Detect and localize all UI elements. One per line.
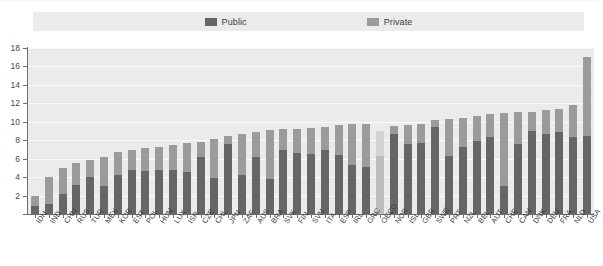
bar-segment-public (238, 175, 246, 214)
bar-segment-public (555, 132, 563, 214)
legend-swatch-public-icon (205, 18, 217, 26)
bar-chl[interactable] (210, 139, 218, 214)
bar-segment-private (321, 127, 329, 150)
legend-item-public: Public (205, 17, 247, 27)
legend-item-private: Private (367, 17, 413, 27)
bar-segment-private (197, 142, 205, 157)
bar-segment-private (569, 105, 577, 137)
bar-segment-public (542, 134, 550, 214)
bar-irl[interactable] (348, 124, 356, 214)
bar-segment-private (183, 143, 191, 172)
bar-segment-private (528, 112, 536, 131)
bar-dnk[interactable] (528, 112, 536, 214)
bar-usa[interactable] (583, 57, 591, 214)
bar-est[interactable] (128, 150, 136, 214)
legend-label-private: Private (384, 17, 413, 27)
bar-segment-private (376, 131, 384, 156)
bar-fin[interactable] (293, 129, 301, 214)
bar-segment-public (335, 155, 343, 214)
bar-aus[interactable] (252, 132, 260, 214)
bar-segment-public (583, 136, 591, 214)
bar-ita[interactable] (321, 127, 329, 214)
bar-bra[interactable] (266, 130, 274, 214)
bar-zaf[interactable] (238, 134, 246, 214)
bar-rus[interactable] (72, 163, 80, 214)
bar-segment-private (404, 125, 412, 143)
y-axis-tick-label: 8 (2, 135, 20, 145)
bar-segment-public (362, 167, 370, 214)
bar-segment-public (486, 137, 494, 214)
bar-segment-public (155, 170, 163, 214)
bar-deu[interactable] (542, 110, 550, 214)
bar-segment-private (555, 109, 563, 132)
bar-ind[interactable] (45, 177, 53, 214)
bar-segment-public (348, 165, 356, 214)
y-axis-tick-label: 12 (2, 98, 20, 108)
y-axis-tick-label: 4 (2, 172, 20, 182)
legend-label-public: Public (222, 17, 247, 27)
y-axis-tick-label: 10 (2, 117, 20, 127)
bar-isr[interactable] (183, 143, 191, 214)
bar-cze[interactable] (197, 142, 205, 214)
bar-swe[interactable] (431, 120, 439, 214)
bar-segment-private (473, 116, 481, 141)
bar-can[interactable] (514, 112, 522, 214)
bar-segment-private (431, 120, 439, 127)
bar-segment-private (348, 124, 356, 166)
bar-segment-public (279, 150, 287, 214)
bar-segment-private (155, 147, 163, 170)
bar-fra[interactable] (555, 109, 563, 214)
bar-segment-public (376, 156, 384, 214)
bar-segment-private (224, 136, 232, 144)
bar-mex[interactable] (100, 157, 108, 214)
bar-segment-private (72, 163, 80, 185)
bar-oecd[interactable] (376, 131, 384, 214)
y-axis-tick-label: 2 (2, 191, 20, 201)
bar-prt[interactable] (445, 119, 453, 214)
bar-hun[interactable] (155, 147, 163, 214)
bar-aut[interactable] (486, 114, 494, 214)
bar-idn[interactable] (31, 196, 39, 214)
bar-segment-private (31, 196, 39, 206)
bar-segment-private (390, 126, 398, 133)
bar-che[interactable] (500, 113, 508, 214)
bar-segment-private (514, 112, 522, 144)
bar-svk[interactable] (279, 129, 287, 214)
bar-bel[interactable] (473, 116, 481, 214)
bar-chn[interactable] (59, 168, 67, 214)
bar-segment-private (252, 132, 260, 157)
bar-grc[interactable] (362, 124, 370, 214)
bar-esp[interactable] (335, 125, 343, 214)
bar-segment-public (183, 172, 191, 214)
bar-tur[interactable] (86, 160, 94, 214)
bar-jpn[interactable] (224, 136, 232, 214)
bar-segment-private (362, 124, 370, 167)
bar-segment-public (514, 144, 522, 214)
bar-kor[interactable] (114, 152, 122, 214)
bar-series-layer (28, 48, 594, 214)
bar-segment-private (542, 110, 550, 134)
bar-segment-private (114, 152, 122, 175)
bar-segment-private (100, 157, 108, 187)
bar-segment-public (431, 127, 439, 214)
bar-segment-private (169, 145, 177, 170)
bar-nzl[interactable] (459, 118, 467, 214)
bar-pol[interactable] (141, 148, 149, 214)
bar-segment-private (459, 118, 467, 147)
bar-segment-public (197, 157, 205, 214)
bar-segment-public (569, 137, 577, 214)
bar-segment-private (279, 129, 287, 150)
bar-lux[interactable] (169, 145, 177, 214)
bar-segment-private (59, 168, 67, 194)
bar-segment-public (224, 144, 232, 214)
bar-segment-private (266, 130, 274, 179)
y-axis-tick-label: 16 (2, 61, 20, 71)
bar-segment-public (293, 153, 301, 214)
bar-segment-private (128, 150, 136, 169)
bar-isl[interactable] (404, 125, 412, 214)
bar-svn[interactable] (307, 128, 315, 214)
bar-segment-private (307, 128, 315, 154)
bar-segment-private (417, 124, 425, 143)
bar-gbr[interactable] (417, 124, 425, 214)
bar-nld[interactable] (569, 105, 577, 214)
